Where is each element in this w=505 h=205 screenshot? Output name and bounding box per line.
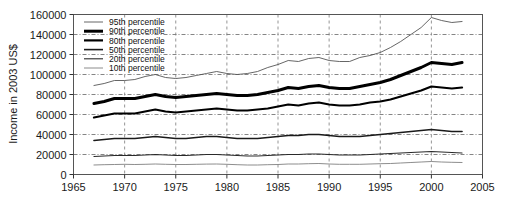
- y-axis-ticks: [70, 15, 74, 175]
- legend-label: 10th percentile: [109, 63, 165, 73]
- y-tick-label: 80000: [36, 89, 67, 101]
- x-tick-label: 1975: [164, 181, 188, 193]
- x-tick-label: 1995: [368, 181, 392, 193]
- vertical-gridlines: [125, 15, 432, 175]
- x-tick-label: 2000: [419, 181, 443, 193]
- y-tick-label: 0: [60, 169, 66, 181]
- y-tick-label: 140000: [30, 29, 67, 41]
- series-line-10th-percentile: [94, 162, 462, 166]
- y-tick-label: 20000: [36, 149, 67, 161]
- x-tick-label: 1990: [317, 181, 341, 193]
- income-percentile-chart: 0200004000060000800001000001200001400001…: [0, 0, 505, 205]
- x-axis-ticks: [74, 175, 483, 179]
- chart-canvas: 0200004000060000800001000001200001400001…: [0, 0, 505, 205]
- y-axis-title: Income in 2003 US$: [7, 44, 19, 144]
- y-tick-label: 60000: [36, 109, 67, 121]
- x-tick-label: 2005: [470, 181, 494, 193]
- chart-legend: 95th percentile90th percentile80th perce…: [84, 17, 165, 73]
- x-tick-label: 1980: [215, 181, 239, 193]
- y-axis-tick-labels: 0200004000060000800001000001200001400001…: [30, 9, 67, 181]
- y-tick-label: 120000: [30, 49, 67, 61]
- x-tick-label: 1985: [266, 181, 290, 193]
- x-tick-label: 1970: [112, 181, 136, 193]
- x-tick-label: 1965: [61, 181, 85, 193]
- x-axis-tick-labels: 196519701975198019851990199520002005: [61, 181, 494, 193]
- y-tick-label: 40000: [36, 129, 67, 141]
- y-tick-label: 100000: [30, 69, 67, 81]
- y-tick-label: 160000: [30, 9, 67, 21]
